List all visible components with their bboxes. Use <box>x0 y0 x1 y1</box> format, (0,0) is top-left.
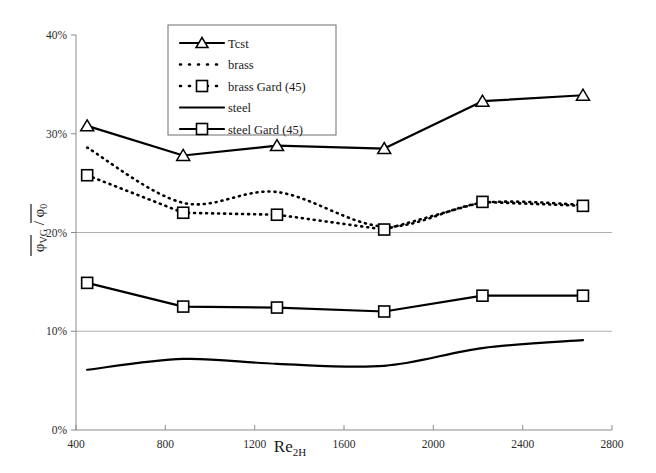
chart-figure: 0%10%20%30%40% 4008001200160020002400280… <box>0 0 656 473</box>
legend-marker-square <box>197 81 208 92</box>
x-tick-label: 800 <box>157 438 175 450</box>
y-tick-label: 10% <box>46 325 68 337</box>
legend-label: brass <box>228 58 254 72</box>
y-tick-label: 30% <box>46 128 68 140</box>
series-marker-square <box>82 277 93 288</box>
y-axis-title-denominator-sub: 0 <box>38 204 49 209</box>
legend-label: Tcst <box>228 37 249 51</box>
legend-label: brass Gard (45) <box>228 80 306 94</box>
chart-canvas: 0%10%20%30%40% 4008001200160020002400280… <box>0 0 656 473</box>
series-marker-square <box>577 200 588 211</box>
y-axis-title: φVG / φ0 <box>31 204 49 256</box>
series-marker-square <box>82 170 93 181</box>
x-tick-label: 2800 <box>601 438 624 450</box>
series-marker-square <box>379 306 390 317</box>
y-axis-title-numerator-sub: VG <box>38 229 49 243</box>
series-marker-square <box>477 290 488 301</box>
legend-item-brass-gard-45[interactable]: brass Gard (45) <box>180 80 306 94</box>
series-marker-square <box>272 209 283 220</box>
series-marker-square <box>379 224 390 235</box>
x-tick-label: 1200 <box>243 438 266 450</box>
svg-text:φVG / φ0: φVG / φ0 <box>31 204 49 252</box>
y-tick-label: 0% <box>52 424 68 436</box>
y-tick-label: 40% <box>46 29 68 41</box>
series-marker-square <box>477 196 488 207</box>
y-axis-title-numerator: φ <box>31 243 47 252</box>
x-tick-label: 2000 <box>422 438 445 450</box>
y-tick-label: 20% <box>46 227 68 239</box>
legend: Tcstbrassbrass Gard (45)steelsteel Gard … <box>168 25 336 137</box>
x-axis-title-base: Re <box>274 437 293 456</box>
x-tick-label: 1600 <box>333 438 356 450</box>
legend-label: steel Gard (45) <box>228 123 303 137</box>
series-marker-square <box>178 207 189 218</box>
x-tick-label: 400 <box>67 438 85 450</box>
x-tick-label: 2400 <box>511 438 534 450</box>
y-axis-title-denominator: φ <box>31 208 47 217</box>
series-marker-square <box>577 290 588 301</box>
series-marker-square <box>272 302 283 313</box>
x-axis-title-sub: 2H <box>293 446 307 458</box>
legend-item-steel-gard-45[interactable]: steel Gard (45) <box>180 123 303 137</box>
legend-marker-square <box>197 124 208 135</box>
series-marker-square <box>178 301 189 312</box>
legend-label: steel <box>228 101 251 115</box>
